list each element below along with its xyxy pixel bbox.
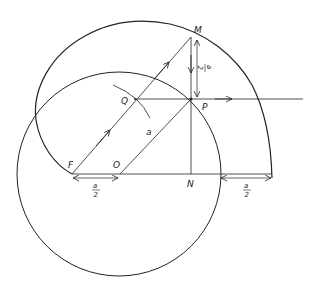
arrow-FM-1 [96, 130, 110, 146]
fraction-outer-num: a [244, 182, 248, 190]
label-N: N [187, 179, 194, 189]
outer-curve [35, 21, 272, 178]
label-F: F [68, 160, 74, 170]
fraction-MP: a 2 [196, 64, 213, 72]
arc-Q [113, 85, 150, 118]
diagram-canvas: M P Q F O N a a 2 a 2 a 2 [0, 0, 320, 289]
fraction-outer: a 2 [243, 182, 251, 199]
point-P-dot [190, 98, 193, 101]
arrow-FM-2 [155, 62, 169, 78]
fraction-FO-num: a [93, 182, 97, 190]
line-FM [72, 37, 191, 174]
label-M: M [194, 25, 202, 35]
label-P: P [202, 102, 208, 112]
label-radius-a: a [146, 127, 152, 137]
label-Q: Q [121, 96, 128, 106]
line-OP [120, 99, 191, 174]
fraction-MP-num: a [205, 65, 213, 69]
label-O: O [113, 160, 120, 170]
fraction-outer-den: 2 [245, 191, 250, 199]
fraction-FO: a 2 [92, 182, 100, 199]
point-Q-dot [134, 98, 136, 100]
fraction-FO-den: 2 [94, 191, 99, 199]
fraction-MP-den: 2 [196, 66, 204, 71]
